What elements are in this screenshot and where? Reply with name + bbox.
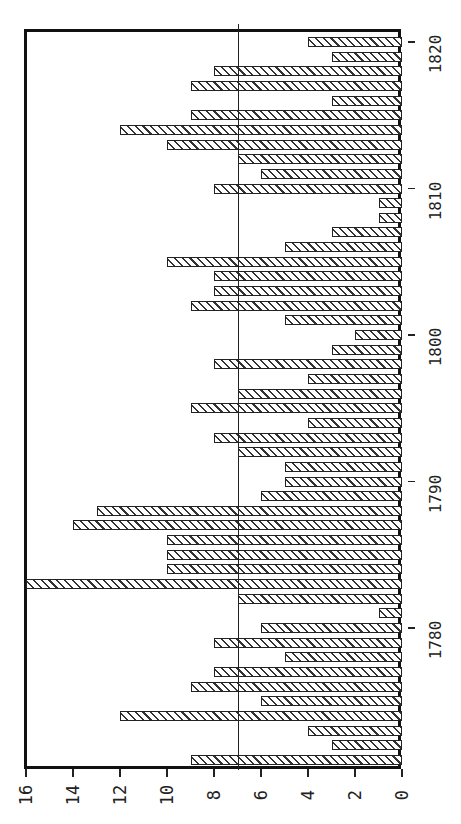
category-tick-label: 1790 bbox=[426, 469, 446, 519]
bar-1793 bbox=[214, 433, 402, 443]
category-tick-label: 1800 bbox=[426, 322, 446, 372]
category-tick-label: 1820 bbox=[426, 29, 446, 79]
bar-1773 bbox=[308, 726, 402, 736]
bar-1808 bbox=[379, 213, 403, 223]
bar-1788 bbox=[97, 506, 403, 516]
bar-1791 bbox=[285, 462, 403, 472]
bar-1784 bbox=[167, 564, 402, 574]
category-tick-label: 1780 bbox=[426, 615, 446, 665]
bar-1813 bbox=[167, 140, 402, 150]
value-tick bbox=[166, 769, 168, 777]
category-tick-label: 1810 bbox=[426, 176, 446, 226]
bar-1772 bbox=[332, 740, 403, 750]
category-tick bbox=[408, 41, 415, 43]
value-tick bbox=[213, 769, 215, 777]
category-tick bbox=[408, 481, 415, 483]
bar-1799 bbox=[332, 345, 403, 355]
value-tick bbox=[401, 769, 403, 777]
value-tick bbox=[307, 769, 309, 777]
bar-1783 bbox=[26, 579, 402, 589]
bar-1781 bbox=[379, 608, 403, 618]
bar-1777 bbox=[214, 667, 402, 677]
value-tick-label: 8 bbox=[204, 780, 224, 810]
bar-1776 bbox=[191, 682, 403, 692]
value-tick-label: 0 bbox=[392, 780, 412, 810]
bar-1802 bbox=[191, 301, 403, 311]
bar-1794 bbox=[308, 418, 402, 428]
bar-1782 bbox=[238, 594, 403, 604]
value-tick bbox=[25, 769, 27, 777]
bar-1807 bbox=[332, 227, 403, 237]
value-tick-label: 2 bbox=[345, 780, 365, 810]
bar-1775 bbox=[261, 696, 402, 706]
bar-1812 bbox=[238, 154, 403, 164]
bar-1803 bbox=[214, 286, 402, 296]
bar-1795 bbox=[191, 403, 403, 413]
value-tick bbox=[260, 769, 262, 777]
bar-1778 bbox=[285, 652, 403, 662]
bar-1798 bbox=[214, 359, 402, 369]
bar-1801 bbox=[285, 315, 403, 325]
bar-1815 bbox=[191, 110, 403, 120]
value-tick-label: 6 bbox=[251, 780, 271, 810]
bar-1796 bbox=[238, 389, 403, 399]
bar-1820 bbox=[308, 37, 402, 47]
value-tick bbox=[72, 769, 74, 777]
bar-1786 bbox=[167, 535, 402, 545]
bar-1811 bbox=[261, 169, 402, 179]
bar-1789 bbox=[261, 491, 402, 501]
bar-1771 bbox=[191, 755, 403, 765]
reference-line bbox=[238, 24, 239, 770]
bar-1780 bbox=[261, 623, 402, 633]
value-tick-label: 10 bbox=[157, 780, 177, 810]
bar-1817 bbox=[191, 81, 403, 91]
value-tick bbox=[119, 769, 121, 777]
category-tick bbox=[408, 627, 415, 629]
bar-1805 bbox=[167, 257, 402, 267]
bar-1785 bbox=[167, 550, 402, 560]
category-tick bbox=[408, 188, 415, 190]
bar-1806 bbox=[285, 242, 403, 252]
bar-1810 bbox=[214, 184, 402, 194]
bar-1818 bbox=[214, 66, 402, 76]
bar-1774 bbox=[120, 711, 402, 721]
bar-1800 bbox=[355, 330, 402, 340]
value-tick bbox=[354, 769, 356, 777]
bar-1804 bbox=[214, 271, 402, 281]
bar-1814 bbox=[120, 125, 402, 135]
bar-chart: 0246810121416 17801790180018101820 bbox=[0, 0, 461, 824]
bar-1779 bbox=[214, 638, 402, 648]
bar-1797 bbox=[308, 374, 402, 384]
category-tick bbox=[408, 334, 415, 336]
bar-1792 bbox=[238, 447, 403, 457]
value-tick-label: 4 bbox=[298, 780, 318, 810]
value-tick-label: 16 bbox=[16, 780, 36, 810]
value-tick-label: 12 bbox=[110, 780, 130, 810]
value-tick-label: 14 bbox=[63, 780, 83, 810]
bar-1819 bbox=[332, 52, 403, 62]
bar-1816 bbox=[332, 96, 403, 106]
bar-1790 bbox=[285, 477, 403, 487]
bar-1809 bbox=[379, 198, 403, 208]
